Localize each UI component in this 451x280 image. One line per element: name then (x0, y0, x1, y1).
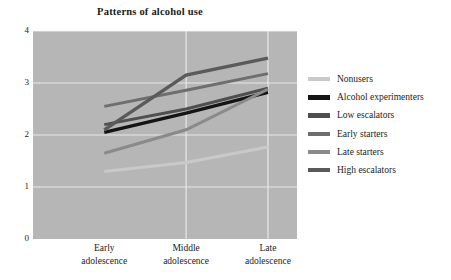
chart-legend: NonusersAlcohol experimentersLow escalat… (308, 70, 451, 179)
legend-item[interactable]: Low escalators (308, 106, 451, 124)
y-tick-label: 1 (3, 182, 29, 191)
alcohol-use-line-chart: Patterns of alcohol use 01234 Earlyadole… (0, 0, 451, 280)
y-tick-label: 4 (3, 26, 29, 35)
legend-label: High escalators (337, 165, 396, 175)
legend-label: Late starters (337, 147, 384, 157)
y-axis: 01234 (0, 0, 29, 280)
legend-label: Alcohol experimenters (337, 92, 424, 102)
legend-swatch (308, 113, 330, 117)
y-tick-label: 2 (3, 130, 29, 139)
legend-swatch (308, 77, 330, 81)
plot-area (33, 31, 297, 239)
chart-title: Patterns of alcohol use (0, 6, 300, 17)
x-axis: EarlyadolescenceMiddleadolescenceLateado… (33, 242, 297, 280)
y-tick-label: 3 (3, 78, 29, 87)
plot-svg (33, 31, 297, 239)
legend-label: Nonusers (337, 74, 373, 84)
legend-swatch (308, 95, 330, 100)
legend-swatch (308, 168, 330, 173)
legend-item[interactable]: Early starters (308, 125, 451, 143)
legend-item[interactable]: Alcohol experimenters (308, 88, 451, 106)
x-tick-label: Lateadolescence (220, 242, 316, 267)
y-tick-label: 0 (3, 234, 29, 243)
legend-swatch (308, 150, 330, 154)
legend-item[interactable]: Nonusers (308, 70, 451, 88)
legend-item[interactable]: Late starters (308, 143, 451, 161)
legend-swatch (308, 132, 330, 136)
legend-label: Early starters (337, 129, 387, 139)
legend-label: Low escalators (337, 110, 394, 120)
legend-item[interactable]: High escalators (308, 161, 451, 179)
